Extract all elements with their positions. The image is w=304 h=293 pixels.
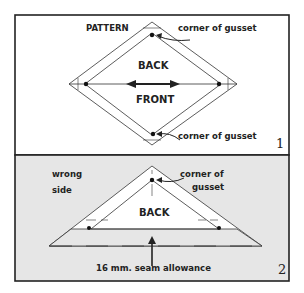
front-label: FRONT [136, 95, 174, 105]
corner-of-gusset-top-label: corner of gusset [178, 24, 257, 33]
back-label: BACK [138, 61, 168, 71]
corner-dot-left [84, 82, 88, 86]
gusset-diagram [0, 0, 304, 293]
corner-of-gusset-bottom-label: corner of gusset [178, 132, 257, 141]
back-label-2: BACK [139, 208, 169, 218]
corner-dot-top [150, 33, 154, 37]
corner-of-gusset-label-line1: corner of [180, 170, 224, 179]
corner-dot-bottom [151, 132, 155, 136]
seam-allowance-label: 16 mm. seam allowance [96, 264, 211, 273]
corner-dot-right [217, 226, 221, 230]
wrong-side-label-line1: wrong [52, 170, 82, 179]
panel-number-2: 2 [278, 263, 286, 276]
panel-number-1: 1 [276, 137, 284, 150]
pattern-label: PATTERN [86, 24, 129, 33]
corner-of-gusset-label-line2: gusset [192, 183, 224, 192]
wrong-side-label-line2: side [52, 186, 72, 195]
corner-dot-left [87, 226, 91, 230]
corner-dot-right [217, 82, 221, 86]
corner-dot-apex [150, 178, 154, 182]
